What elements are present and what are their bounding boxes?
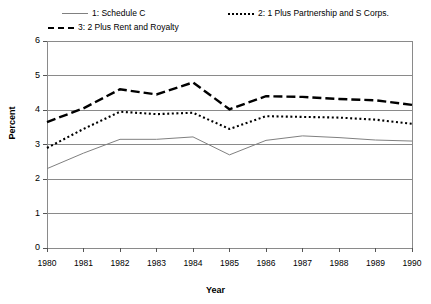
- x-tick-label-1980: 1980: [27, 258, 67, 268]
- line-chart: 1: Schedule C 2: 1 Plus Partnership and …: [0, 0, 431, 304]
- x-tick-label-1985: 1985: [210, 258, 250, 268]
- series-line-1: [47, 136, 412, 169]
- series-line-2: [47, 112, 412, 148]
- x-tick-label-1988: 1988: [319, 258, 359, 268]
- x-tick-label-1987: 1987: [283, 258, 323, 268]
- x-tick-label-1986: 1986: [246, 258, 286, 268]
- x-tick-label-1981: 1981: [64, 258, 104, 268]
- y-tick-label-2: 2: [14, 173, 40, 183]
- y-tick-label-0: 0: [14, 242, 40, 252]
- x-tick-label-1989: 1989: [356, 258, 396, 268]
- y-tick-label-4: 4: [14, 104, 40, 114]
- x-tick-label-1984: 1984: [173, 258, 213, 268]
- x-tick-label-1982: 1982: [100, 258, 140, 268]
- x-tick-label-1990: 1990: [392, 258, 431, 268]
- y-tick-label-1: 1: [14, 208, 40, 218]
- series-line-3: [47, 82, 412, 122]
- x-tick-label-1983: 1983: [137, 258, 177, 268]
- y-tick-label-3: 3: [14, 139, 40, 149]
- y-tick-label-5: 5: [14, 70, 40, 80]
- y-tick-label-6: 6: [14, 35, 40, 45]
